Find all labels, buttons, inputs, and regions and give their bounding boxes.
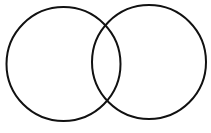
left-circle (7, 7, 121, 121)
venn-svg (0, 0, 211, 133)
right-circle (92, 5, 206, 119)
venn-diagram (0, 0, 211, 133)
